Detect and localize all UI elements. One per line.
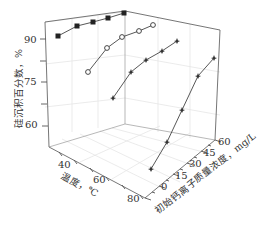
y-tick-60: 60 <box>218 136 231 147</box>
z-tick-60: 60 <box>25 119 38 130</box>
y-tick-30: 30 <box>189 158 202 169</box>
z-axis-title: 硅沉积百分数，% <box>13 49 24 128</box>
z-tick-75: 75 <box>24 76 37 87</box>
series-lines <box>58 13 214 169</box>
markers-star-30 <box>110 38 180 101</box>
axes-box <box>45 11 220 198</box>
y-tick-15: 15 <box>175 170 188 181</box>
x-tick-40: 40 <box>58 159 71 170</box>
markers-open-circle <box>86 23 156 75</box>
y-tick-0: 0 <box>161 181 167 192</box>
z-tick-90: 90 <box>24 34 37 45</box>
markers-filled-square <box>56 11 127 39</box>
3d-line-chart: 90 75 60 硅沉积百分数，% 40 60 80 温度，℃ 0 15 30 … <box>0 0 264 227</box>
x-tick-80: 80 <box>127 193 140 204</box>
y-tick-45: 45 <box>203 147 216 158</box>
series-ca-30 <box>113 41 177 98</box>
x-tick-60: 60 <box>93 174 106 185</box>
